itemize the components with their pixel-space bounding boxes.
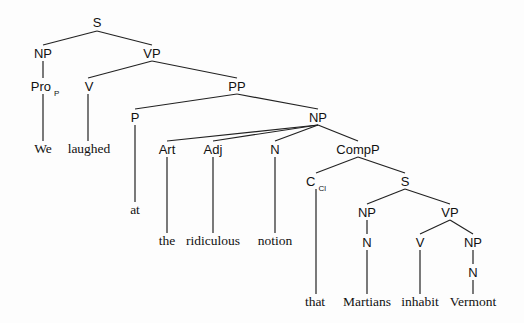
node-label: laughed — [68, 141, 111, 156]
node-label: N — [362, 235, 371, 250]
node-label: NP — [464, 235, 482, 250]
category-node: N — [362, 235, 371, 250]
category-node: Art — [159, 142, 176, 157]
word-leaf: laughed — [68, 141, 111, 157]
word-leaf: ridiculous — [186, 233, 240, 249]
category-node: NP — [464, 235, 482, 250]
word-leaf: inhabit — [401, 294, 439, 310]
node-label: VP — [441, 205, 458, 220]
node-label: We — [34, 141, 52, 156]
category-node: NP — [358, 205, 376, 220]
category-node: N — [468, 265, 477, 280]
node-label: Pro — [31, 79, 51, 94]
syntax-tree-diagram: SNPVPProPVPPPNPWelaughedArtAdjNCompPatCC… — [0, 0, 524, 323]
category-node: Adj — [204, 142, 223, 157]
tree-branch — [237, 94, 318, 109]
node-label: VP — [143, 46, 160, 61]
word-leaf: Martians — [343, 294, 391, 310]
node-label: N — [468, 265, 477, 280]
node-label: Vermont — [450, 294, 497, 309]
word-leaf: notion — [258, 233, 293, 249]
tree-branch — [358, 157, 405, 173]
category-node: CompP — [336, 142, 379, 157]
node-label: V — [416, 235, 425, 250]
node-subscript: P — [54, 89, 59, 98]
tree-edges — [0, 0, 524, 323]
word-leaf: that — [305, 294, 325, 310]
node-label: PP — [228, 79, 245, 94]
tree-branch — [318, 125, 358, 141]
category-node: S — [401, 174, 410, 189]
node-label: P — [131, 110, 140, 125]
node-subscript: Cl — [318, 184, 326, 193]
category-node: NP — [34, 46, 52, 61]
tree-branch — [450, 220, 473, 234]
node-label: at — [130, 202, 140, 217]
node-label: Martians — [343, 294, 391, 309]
category-node: NP — [309, 110, 327, 125]
node-label: inhabit — [401, 294, 439, 309]
node-label: S — [401, 174, 410, 189]
node-label: NP — [358, 205, 376, 220]
node-label: CompP — [336, 142, 379, 157]
node-label: Art — [159, 142, 176, 157]
category-node: VP — [441, 205, 458, 220]
node-label: notion — [258, 233, 293, 248]
tree-branch — [88, 61, 152, 78]
node-label: N — [270, 142, 279, 157]
word-leaf: at — [130, 202, 140, 218]
tree-branch — [43, 31, 97, 45]
node-label: ridiculous — [186, 233, 240, 248]
category-node: N — [270, 142, 279, 157]
tree-branch — [420, 220, 450, 234]
node-label: S — [93, 15, 102, 30]
node-label: C — [306, 174, 315, 189]
tree-branch — [135, 94, 237, 109]
word-leaf: We — [34, 141, 52, 157]
tree-branch — [367, 189, 405, 204]
node-label: NP — [309, 110, 327, 125]
node-label: NP — [34, 46, 52, 61]
node-label: V — [85, 79, 94, 94]
category-node: VP — [143, 46, 160, 61]
category-node: V — [85, 79, 94, 94]
tree-branch — [405, 189, 450, 204]
category-node: ProP — [31, 79, 60, 94]
category-node: S — [93, 15, 102, 30]
category-node: CCl — [306, 174, 326, 189]
node-label: that — [305, 294, 325, 309]
tree-branch — [97, 31, 152, 45]
category-node: V — [416, 235, 425, 250]
tree-branch — [213, 125, 318, 141]
tree-branch — [152, 61, 237, 78]
word-leaf: the — [159, 233, 176, 249]
category-node: PP — [228, 79, 245, 94]
node-label: Adj — [204, 142, 223, 157]
category-node: P — [131, 110, 140, 125]
node-label: the — [159, 233, 176, 248]
tree-branch — [316, 157, 358, 173]
word-leaf: Vermont — [450, 294, 497, 310]
